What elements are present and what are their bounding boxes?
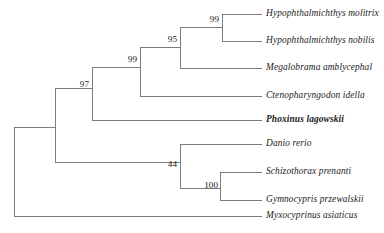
support-value-node-danio-clade: 44 <box>168 160 177 169</box>
support-value-node-hypophthalmichthys-megalobrama: 95 <box>168 35 177 44</box>
tip-label-myxocyprinus-asiaticus: Myxocyprinus asiaticus <box>266 211 357 220</box>
tip-label-ctenopharyngodon-idella: Ctenopharyngodon idella <box>266 91 365 100</box>
tip-label-hypophthalmichthys-molitrix: Hypophthalmichthys molitrix <box>266 9 379 18</box>
tip-label-phoxinus-lagowskii: Phoxinus lagowskii <box>266 115 344 124</box>
support-value-node-molitrix-nobilis: 99 <box>210 15 219 24</box>
tip-label-danio-rerio: Danio rerio <box>266 139 312 148</box>
support-value-node-ctenopharyngodon-clade: 99 <box>128 55 137 64</box>
tip-label-schizothorax-prenanti: Schizothorax prenanti <box>266 167 351 176</box>
tip-label-gymnocypris-przewalskii: Gymnocypris przewalskii <box>266 195 364 204</box>
support-value-node-schizothorax-gymnocypris: 100 <box>204 181 218 190</box>
support-value-node-phoxinus-clade: 97 <box>80 80 89 89</box>
tip-label-megalobrama-amblycephal: Megalobrama amblycephal <box>266 63 372 72</box>
tip-label-hypophthalmichthys-nobilis: Hypophthalmichthys nobilis <box>266 36 375 45</box>
phylogenetic-tree-figure: Hypophthalmichthys molitrixHypophthalmic… <box>0 0 384 233</box>
